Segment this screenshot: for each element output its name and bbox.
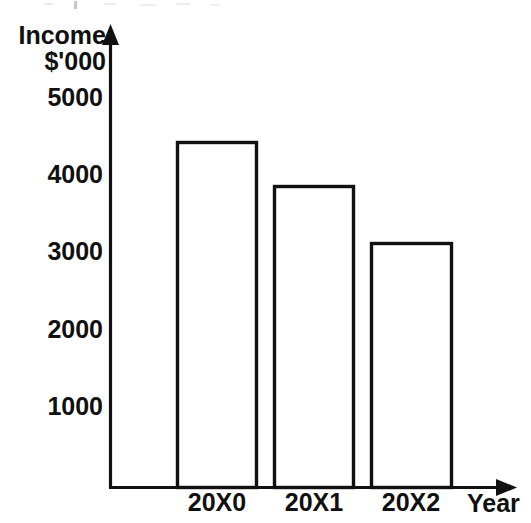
y-axis-title-line1: Income bbox=[18, 21, 106, 49]
y-tick-label: 5000 bbox=[47, 83, 103, 111]
x-tick-label-20x1: 20X1 bbox=[285, 488, 343, 516]
x-tick-label-20x0: 20X0 bbox=[188, 488, 246, 516]
y-tick-label: 4000 bbox=[47, 160, 103, 188]
y-axis bbox=[102, 24, 119, 488]
y-axis-title: Income $'000 bbox=[18, 21, 106, 75]
x-axis-tick-labels: 20X0 20X1 20X2 bbox=[188, 488, 440, 516]
y-axis-title-line2: $'000 bbox=[44, 47, 106, 75]
x-axis-title: Year bbox=[467, 489, 520, 517]
chart-canvas: 5000 4000 3000 2000 1000 Income $'000 20… bbox=[0, 0, 531, 523]
y-axis-tick-labels: 5000 4000 3000 2000 1000 bbox=[47, 83, 103, 420]
bar-20x1 bbox=[275, 187, 354, 488]
y-tick-label: 2000 bbox=[47, 315, 103, 343]
x-tick-label-20x2: 20X2 bbox=[382, 488, 440, 516]
bar-20x0 bbox=[178, 143, 257, 488]
y-tick-label: 3000 bbox=[47, 237, 103, 265]
y-tick-label: 1000 bbox=[47, 392, 103, 420]
bar-chart-figure: 5000 4000 3000 2000 1000 Income $'000 20… bbox=[0, 0, 531, 523]
bar-series bbox=[178, 143, 452, 488]
scan-artifacts bbox=[44, 1, 220, 9]
bar-20x2 bbox=[372, 244, 452, 488]
